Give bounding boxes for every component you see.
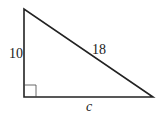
horizontal-leg-label: c (86, 99, 93, 114)
right-angle-marker (24, 85, 36, 97)
hypotenuse-label: 18 (92, 42, 106, 57)
right-triangle (24, 9, 153, 97)
triangle-diagram: 10 18 c (0, 0, 164, 114)
vertical-leg-label: 10 (9, 46, 23, 61)
